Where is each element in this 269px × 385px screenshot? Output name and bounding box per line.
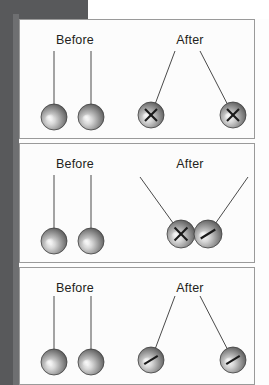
panel-canvas: BeforeAfter xyxy=(20,268,254,384)
ball-highlight xyxy=(45,359,57,369)
pendulum-ball xyxy=(41,228,67,254)
label-after: After xyxy=(176,33,203,47)
figure-root: BeforeAfter BeforeAfter BeforeAfter xyxy=(0,0,269,385)
pendulum-ball xyxy=(41,104,67,130)
label-after: After xyxy=(176,281,203,295)
label-after: After xyxy=(176,157,203,171)
pendulum-ball xyxy=(194,220,222,248)
pendulum-ball xyxy=(138,102,164,128)
ball-highlight xyxy=(45,114,57,124)
panel-collision-2: BeforeAfter xyxy=(19,143,255,263)
panel-collision-1: BeforeAfter xyxy=(19,19,255,139)
figure-sheet: BeforeAfter BeforeAfter BeforeAfter xyxy=(19,19,269,385)
ball-highlight xyxy=(82,238,94,248)
label-before: Before xyxy=(56,281,94,295)
panel-collision-3: BeforeAfter xyxy=(19,267,255,385)
label-before: Before xyxy=(56,33,94,47)
pendulum-ball xyxy=(41,349,67,375)
pendulum-ball xyxy=(138,347,164,373)
pendulum-ball xyxy=(167,220,195,248)
ball-highlight xyxy=(82,114,94,124)
pendulum-ball xyxy=(78,104,104,130)
panel-canvas: BeforeAfter xyxy=(20,144,254,262)
pendulum-ball xyxy=(78,228,104,254)
label-before: Before xyxy=(56,157,94,171)
pendulum-ball xyxy=(78,349,104,375)
panel-canvas: BeforeAfter xyxy=(20,20,254,138)
ball-highlight xyxy=(82,359,94,369)
ball-highlight xyxy=(45,238,57,248)
pendulum-ball xyxy=(220,347,246,373)
pendulum-ball xyxy=(220,102,246,128)
